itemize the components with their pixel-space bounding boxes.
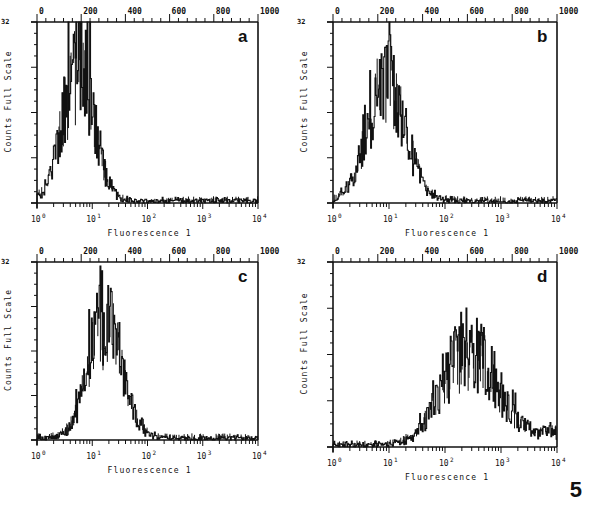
figure-number: 5 [570,477,582,503]
top-tick-label: 600 [469,7,484,16]
y-fullscale-label: 32 [297,258,305,266]
panel-a: 0200400600800100032100101102103104Fluore… [0,0,296,245]
svg-text:4: 4 [263,212,267,219]
y-axis-label: Counts Full Scale [300,50,309,152]
x-tick-label: 10 [495,215,505,224]
x-axis-label: Fluorescence 1 [405,229,489,238]
svg-text:4: 4 [562,456,566,463]
x-tick-label: 10 [142,452,152,461]
top-tick-label: 400 [127,247,142,256]
top-tick-label: 400 [425,247,440,256]
top-tick-label: 0 [335,7,340,16]
x-tick-label: 10 [86,452,96,461]
panel-d: 0200400600800100032100101102103104Fluore… [296,240,592,485]
top-tick-label: 600 [172,247,187,256]
top-tick-label: 600 [469,247,484,256]
x-tick-label: 10 [197,452,207,461]
panel-c: 0200400600800100032100101102103104Fluore… [0,240,296,485]
top-tick-label: 0 [39,247,44,256]
panel-label: b [537,27,547,46]
x-tick-label: 10 [86,215,96,224]
x-tick-label: 10 [383,459,393,468]
x-tick-label: 10 [439,459,449,468]
svg-text:1: 1 [97,449,101,456]
svg-text:3: 3 [208,449,212,456]
histogram-trace [333,22,557,203]
y-fullscale-label: 32 [1,258,9,266]
histogram-a: 0200400600800100032100101102103104Fluore… [0,0,296,245]
svg-text:2: 2 [450,212,454,219]
top-tick-label: 200 [380,247,395,256]
top-tick-label: 400 [425,7,440,16]
x-tick-label: 10 [439,215,449,224]
plot-area: 0200400600800100032100101102103104Fluore… [1,247,279,475]
top-tick-label: 200 [380,7,395,16]
histogram-trace [333,308,557,447]
top-tick-label: 800 [216,7,231,16]
histogram-trace [37,266,258,440]
y-fullscale-label: 32 [297,18,305,26]
x-tick-label: 10 [197,215,207,224]
svg-text:3: 3 [506,456,510,463]
x-tick-label: 10 [551,459,561,468]
svg-text:2: 2 [153,212,157,219]
histogram-d: 0200400600800100032100101102103104Fluore… [296,240,592,485]
x-tick-label: 10 [252,452,262,461]
top-tick-label: 0 [39,7,44,16]
top-tick-label: 600 [172,7,187,16]
svg-text:1: 1 [394,456,398,463]
panel-label: c [238,267,247,286]
x-tick-label: 10 [551,215,561,224]
top-tick-label: 800 [514,7,529,16]
svg-text:1: 1 [97,212,101,219]
plot-area: 0200400600800100032100101102103104Fluore… [297,7,578,238]
top-tick-label: 400 [127,7,142,16]
histogram-b: 0200400600800100032100101102103104Fluore… [296,0,592,245]
top-tick-label: 800 [216,247,231,256]
x-tick-label: 10 [327,215,337,224]
svg-text:3: 3 [506,212,510,219]
top-tick-label: 1000 [260,7,279,16]
svg-text:2: 2 [153,449,157,456]
histogram-trace [37,22,258,203]
panel-label: a [238,27,248,46]
y-fullscale-label: 32 [1,18,9,26]
top-tick-label: 200 [83,247,98,256]
y-axis-label: Counts Full Scale [4,50,13,152]
x-axis-label: Fluorescence 1 [108,229,192,238]
x-tick-label: 10 [142,215,152,224]
panel-b: 0200400600800100032100101102103104Fluore… [296,0,592,245]
x-tick-label: 10 [327,459,337,468]
svg-text:2: 2 [450,456,454,463]
x-axis-label: Fluorescence 1 [405,473,489,482]
top-tick-label: 0 [335,247,340,256]
svg-text:0: 0 [338,456,342,463]
x-axis-label: Fluorescence 1 [108,466,192,475]
x-tick-label: 10 [31,215,41,224]
svg-text:4: 4 [562,212,566,219]
x-tick-label: 10 [252,215,262,224]
x-tick-label: 10 [383,215,393,224]
svg-text:0: 0 [42,212,46,219]
svg-text:0: 0 [338,212,342,219]
top-tick-label: 800 [514,247,529,256]
plot-area: 0200400600800100032100101102103104Fluore… [297,247,578,482]
svg-text:1: 1 [394,212,398,219]
top-tick-label: 1000 [559,247,578,256]
svg-text:3: 3 [208,212,212,219]
top-tick-label: 1000 [260,247,279,256]
panel-label: d [537,267,547,286]
svg-text:4: 4 [263,449,267,456]
y-axis-label: Counts Full Scale [300,292,309,394]
x-tick-label: 10 [495,459,505,468]
y-axis-label: Counts Full Scale [4,289,13,391]
x-tick-label: 10 [31,452,41,461]
svg-text:0: 0 [42,449,46,456]
top-tick-label: 200 [83,7,98,16]
plot-area: 0200400600800100032100101102103104Fluore… [1,7,279,238]
histogram-c: 0200400600800100032100101102103104Fluore… [0,240,296,485]
top-tick-label: 1000 [559,7,578,16]
